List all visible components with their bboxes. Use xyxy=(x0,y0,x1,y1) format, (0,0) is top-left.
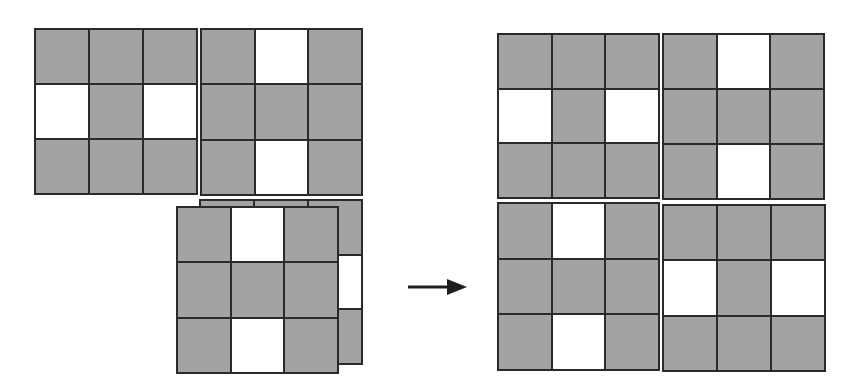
grid-cell xyxy=(553,144,605,197)
grid-cell xyxy=(718,261,770,314)
grid-cell xyxy=(606,35,658,88)
grid-cell xyxy=(256,141,308,194)
grid-cell xyxy=(553,90,605,143)
grid-cell xyxy=(499,35,551,88)
grid-cell xyxy=(772,261,824,314)
right-tile-a xyxy=(497,33,660,199)
grid-cell xyxy=(718,317,770,370)
grid-cell xyxy=(285,208,337,261)
grid-cell xyxy=(90,85,142,138)
left-tile-a xyxy=(34,28,198,195)
grid-cell xyxy=(309,141,361,194)
right-tile-c xyxy=(497,202,660,371)
grid-cell xyxy=(664,35,716,88)
grid-cell xyxy=(664,145,716,198)
grid-cell xyxy=(718,35,770,88)
grid-cell xyxy=(553,204,605,258)
grid-cell xyxy=(664,206,716,259)
grid-cell xyxy=(499,90,551,143)
grid-cell xyxy=(309,85,361,138)
grid-cell xyxy=(606,204,658,258)
grid-cell xyxy=(178,263,230,316)
grid-cell xyxy=(772,317,824,370)
grid-cell xyxy=(771,145,823,198)
grid-cell xyxy=(553,315,605,369)
grid-cell xyxy=(178,208,230,261)
grid-cell xyxy=(202,141,254,194)
grid-cell xyxy=(178,319,230,372)
grid-cell xyxy=(664,261,716,314)
grid-cell xyxy=(144,85,196,138)
grid-cell xyxy=(90,140,142,193)
grid-cell xyxy=(718,206,770,259)
grid-cell xyxy=(232,263,284,316)
grid-cell xyxy=(202,85,254,138)
right-tile-d xyxy=(662,204,826,372)
grid-cell xyxy=(718,90,770,143)
grid-cell xyxy=(664,317,716,370)
grid-cell xyxy=(499,144,551,197)
grid-cell xyxy=(256,85,308,138)
grid-cell xyxy=(664,90,716,143)
grid-cell xyxy=(772,206,824,259)
grid-cell xyxy=(309,30,361,83)
grid-cell xyxy=(36,30,88,83)
grid-cell xyxy=(285,319,337,372)
grid-cell xyxy=(771,35,823,88)
left-tile-b xyxy=(200,28,363,196)
grid-cell xyxy=(606,90,658,143)
grid-cell xyxy=(499,315,551,369)
grid-cell xyxy=(718,145,770,198)
left-tile-c-front xyxy=(176,206,339,374)
grid-cell xyxy=(499,260,551,314)
grid-cell xyxy=(285,263,337,316)
grid-cell xyxy=(606,260,658,314)
grid-cell xyxy=(256,30,308,83)
grid-cell xyxy=(36,85,88,138)
grid-cell xyxy=(771,90,823,143)
grid-cell xyxy=(232,208,284,261)
grid-cell xyxy=(36,140,88,193)
grid-cell xyxy=(144,30,196,83)
grid-cell xyxy=(606,144,658,197)
grid-cell xyxy=(90,30,142,83)
grid-cell xyxy=(202,30,254,83)
grid-cell xyxy=(144,140,196,193)
grid-cell xyxy=(232,319,284,372)
grid-cell xyxy=(499,204,551,258)
grid-cell xyxy=(606,315,658,369)
grid-cell xyxy=(553,35,605,88)
right-tile-b xyxy=(662,33,825,200)
grid-cell xyxy=(553,260,605,314)
